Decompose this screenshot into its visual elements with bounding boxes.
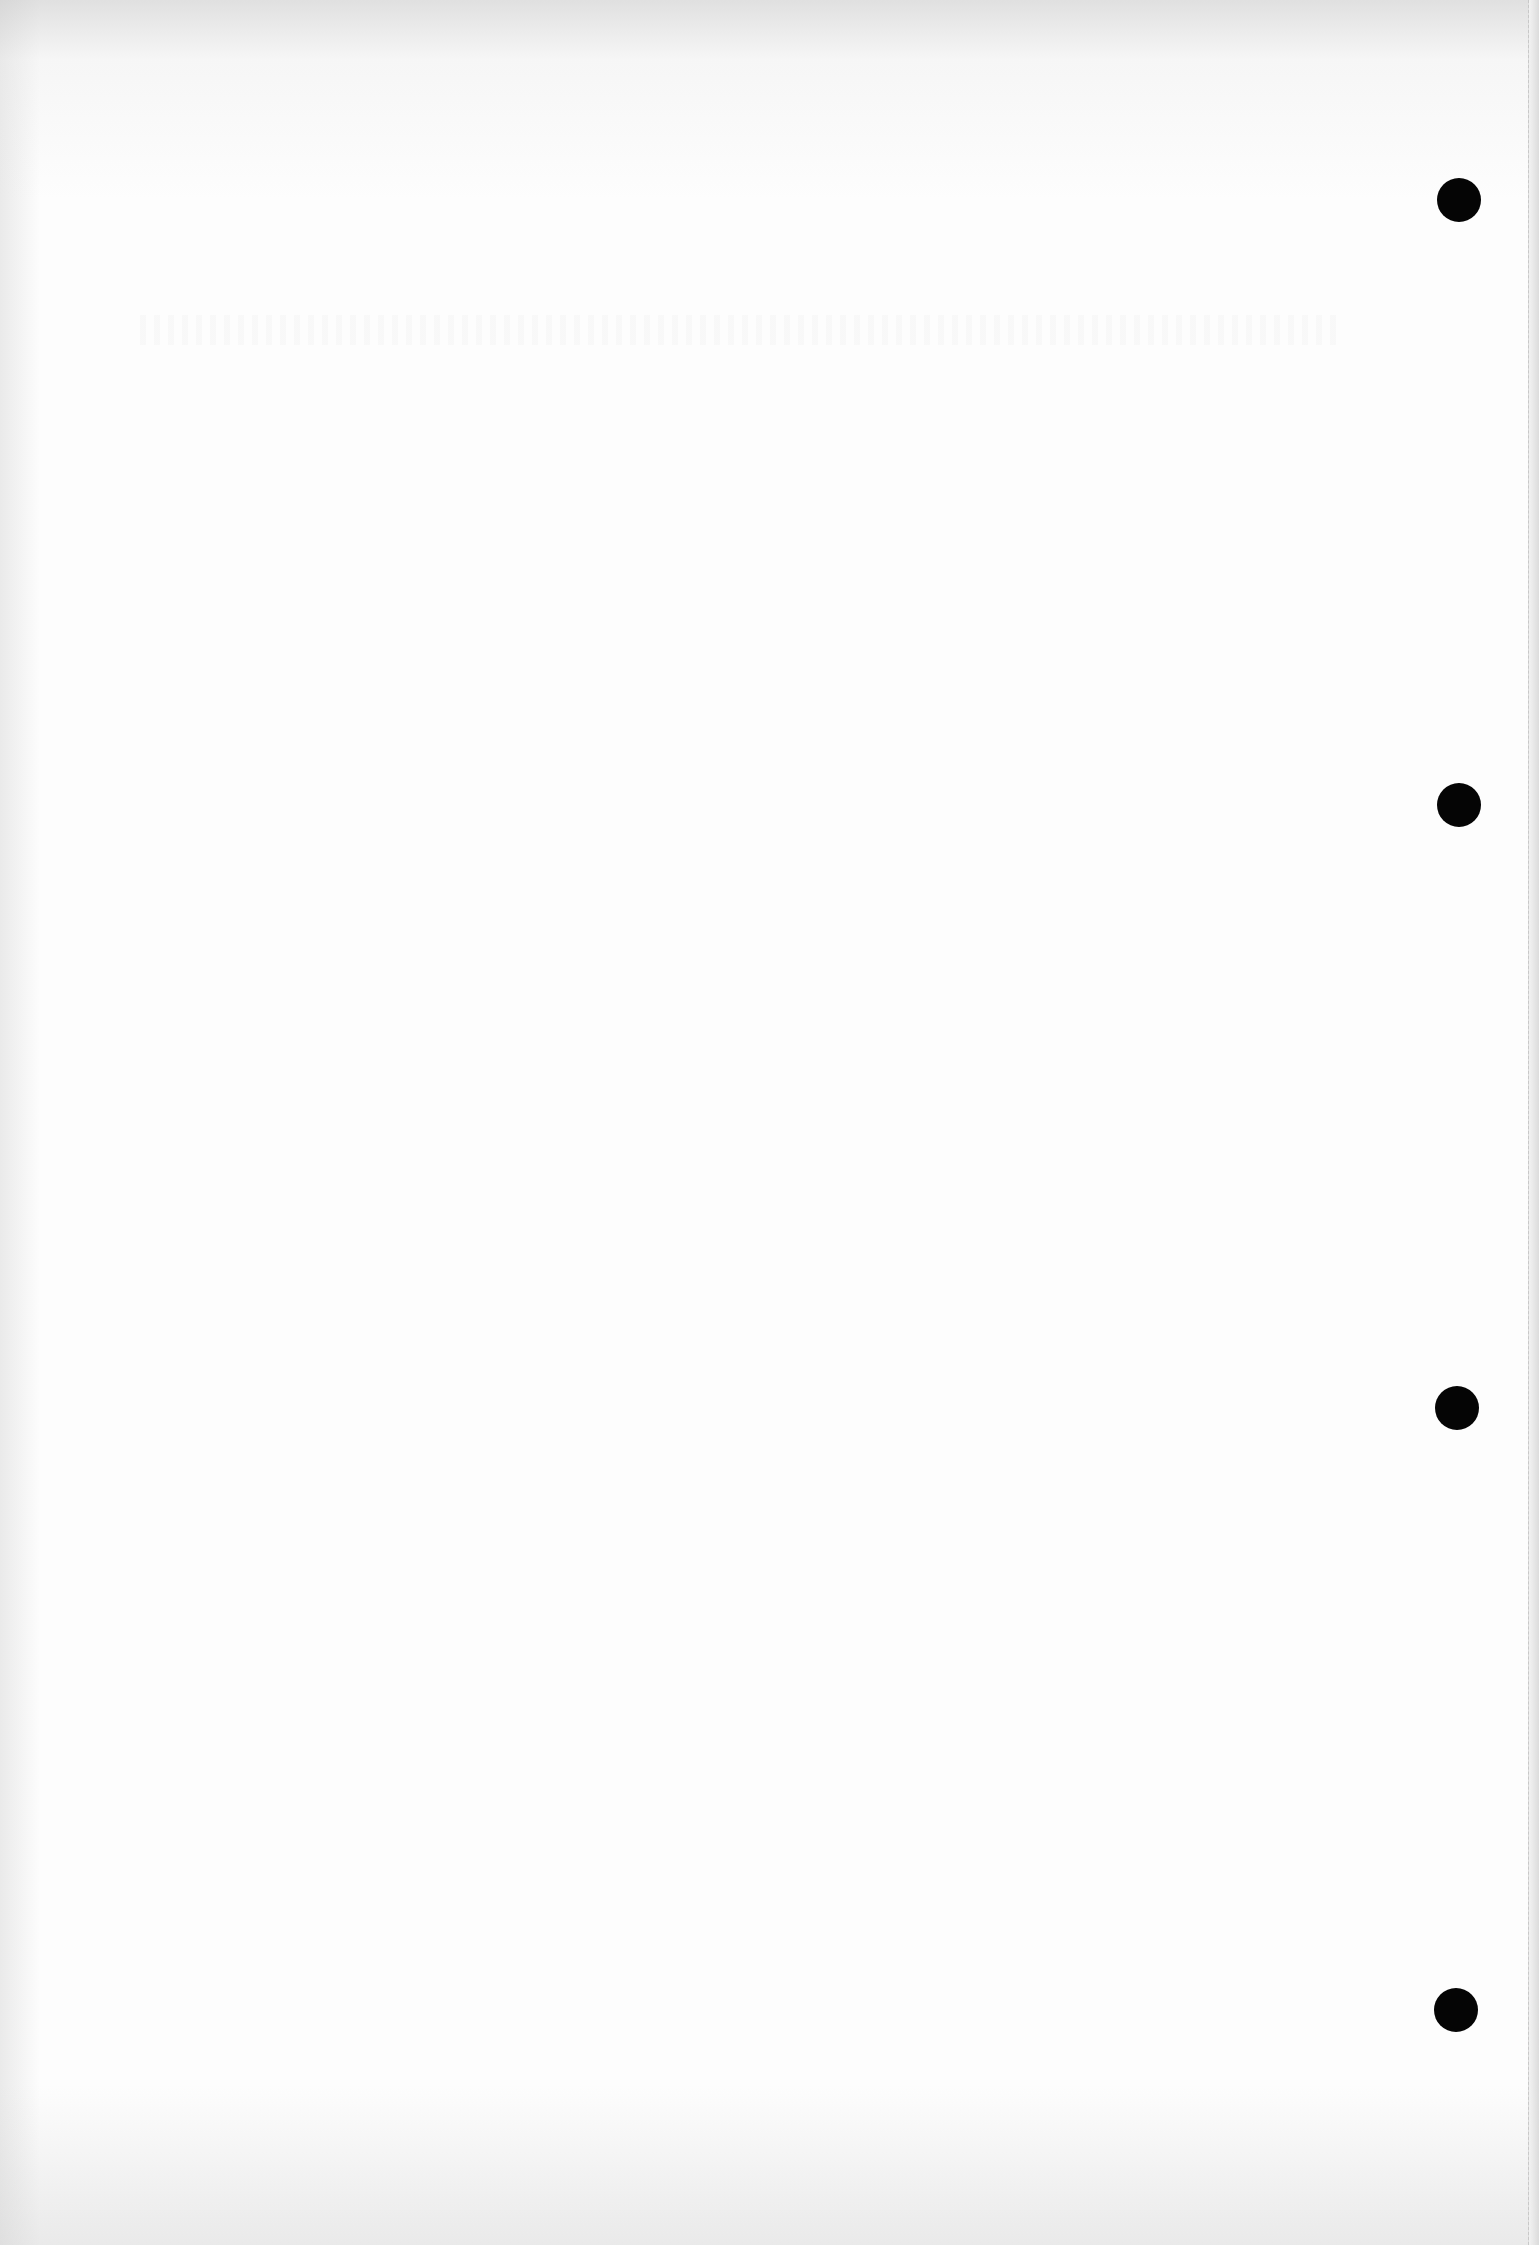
show-through-text-artifact <box>140 315 1340 345</box>
punch-hole-3 <box>1435 1386 1479 1430</box>
page-edge-shadow <box>1528 0 1539 2245</box>
scanned-page <box>0 0 1539 2245</box>
punch-hole-2 <box>1437 783 1481 827</box>
punch-hole-1 <box>1437 178 1481 222</box>
punch-hole-4 <box>1434 1988 1478 2032</box>
